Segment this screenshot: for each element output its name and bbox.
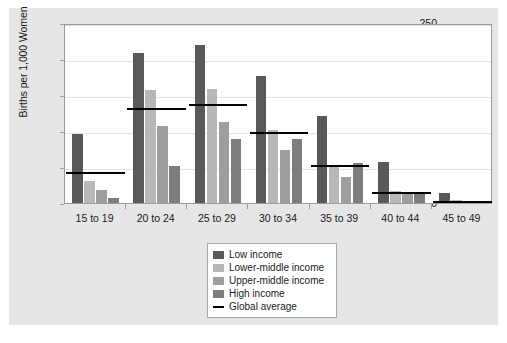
bar: [72, 134, 83, 203]
x-tick-mark: [370, 204, 371, 209]
legend-item-label: Low income: [229, 250, 282, 260]
x-tick-label: 30 to 34: [247, 212, 308, 224]
legend-item[interactable]: High income: [213, 287, 330, 300]
bar: [329, 165, 340, 203]
gridline: [65, 25, 491, 26]
legend-item-label: Global average: [229, 302, 297, 312]
x-tick-mark: [186, 204, 187, 209]
y-tick-mark: [60, 204, 64, 205]
legend-item-label: Lower-middle income: [229, 263, 324, 273]
y-axis-title: Births per 1,000 Women: [17, 0, 29, 147]
bar: [108, 198, 119, 203]
global-average-segment: [250, 132, 309, 134]
bar: [256, 76, 267, 203]
gridline: [65, 97, 491, 98]
legend-item[interactable]: Upper-middle income: [213, 274, 330, 287]
x-tick-mark: [309, 204, 310, 209]
x-tick-label: 40 to 44: [370, 212, 431, 224]
bar: [402, 194, 413, 203]
global-average-segment: [189, 104, 248, 106]
bar: [378, 162, 389, 203]
bar: [157, 126, 168, 203]
global-average-segment: [66, 172, 125, 174]
legend-item[interactable]: Low income: [213, 248, 330, 261]
global-average-segment: [127, 108, 186, 110]
legend-item[interactable]: Lower-middle income: [213, 261, 330, 274]
legend-color-swatch: [213, 277, 224, 285]
bar: [280, 150, 291, 203]
bar: [317, 116, 328, 203]
legend-color-swatch: [213, 290, 224, 298]
legend-item-label: High income: [229, 289, 285, 299]
global-average-segment: [433, 201, 492, 203]
bar: [268, 130, 279, 203]
bar: [133, 53, 144, 203]
chart-figure: Births per 1,000 Women 050100150200250 1…: [0, 0, 507, 343]
legend-item-label: Upper-middle income: [229, 276, 324, 286]
gridline: [65, 61, 491, 62]
bar: [414, 192, 425, 203]
x-tick-mark: [247, 204, 248, 209]
legend: Low incomeLower-middle incomeUpper-middl…: [207, 243, 337, 318]
x-tick-label: 15 to 19: [64, 212, 125, 224]
x-tick-label: 35 to 39: [309, 212, 370, 224]
bar: [292, 139, 303, 203]
global-average-segment: [372, 192, 431, 194]
bar: [195, 45, 206, 203]
bar: [231, 139, 242, 203]
x-tick-label: 20 to 24: [125, 212, 186, 224]
bar: [96, 190, 107, 203]
x-tick-mark: [431, 204, 432, 209]
bar: [341, 177, 352, 203]
bar: [169, 166, 180, 203]
legend-color-swatch: [213, 264, 224, 272]
legend-item[interactable]: Global average: [213, 300, 330, 313]
legend-color-swatch: [213, 251, 224, 259]
x-tick-label: 25 to 29: [186, 212, 247, 224]
x-tick-label: 45 to 49: [431, 212, 492, 224]
bar: [145, 90, 156, 203]
bar: [353, 163, 364, 203]
plot-area: [64, 24, 492, 204]
bar: [219, 122, 230, 203]
legend-line-swatch: [213, 303, 224, 311]
x-tick-mark: [125, 204, 126, 209]
bar: [84, 181, 95, 203]
global-average-segment: [311, 165, 370, 167]
